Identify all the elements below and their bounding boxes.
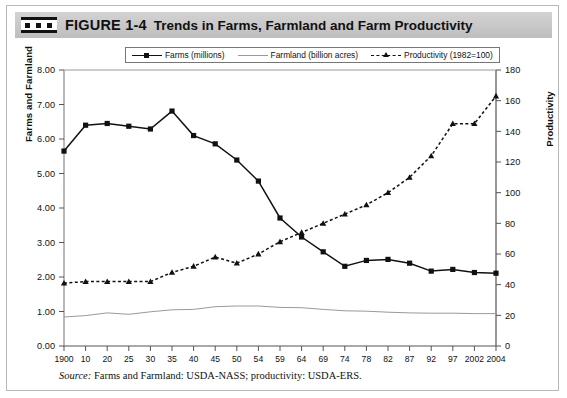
series-marker-square [126,124,131,129]
x-tick-label: 78 [362,354,372,364]
series-marker-triangle [299,229,305,235]
series-marker-square [213,141,218,146]
x-tick-label: 50 [232,354,242,364]
x-tick-label: 45 [210,354,220,364]
x-tick-label: 92 [426,354,436,364]
series-marker-square [105,121,110,126]
series-marker-square [256,178,261,183]
y-tick-label-left: 4.00 [37,203,55,213]
y-tick-label-left: 8.00 [37,65,55,75]
series-marker-square [191,133,196,138]
y-tick-label-left: 2.00 [37,272,55,282]
x-tick-label: 97 [448,354,458,364]
series-marker-square [364,258,369,263]
y-tick-label-right: 20 [505,311,515,321]
series-marker-triangle [493,93,499,99]
chart-plot-area: 0.001.002.003.004.005.006.007.008.000204… [7,6,560,392]
y-tick-label-right: 140 [505,127,520,137]
y-tick-label-left: 1.00 [37,307,55,317]
y-tick-label-left: 7.00 [37,100,55,110]
series-marker-square [83,123,88,128]
y-tick-label-right: 100 [505,188,520,198]
y-tick-label-left: 0.00 [37,341,55,351]
series-marker-square [472,270,477,275]
series-marker-square [148,126,153,131]
series-marker-square [429,269,434,274]
series-marker-triangle [169,269,175,275]
y-tick-label-right: 40 [505,280,515,290]
x-tick-label: 74 [340,354,350,364]
x-tick-label: 54 [254,354,264,364]
figure-card: FIGURE 1-4 Trends in Farms, Farmland and… [6,5,559,391]
y-tick-label-right: 180 [505,65,520,75]
series-marker-square [385,257,390,262]
series-line-2 [64,306,496,317]
series-marker-triangle [255,251,261,257]
x-tick-label: 69 [318,354,328,364]
series-marker-square [342,264,347,269]
x-tick-label: 1900 [54,354,73,364]
series-marker-triangle [191,263,197,269]
x-tick-label: 40 [189,354,199,364]
x-tick-label: 59 [275,354,285,364]
x-tick-label: 25 [124,354,134,364]
series-marker-square [277,215,282,220]
x-tick-label: 2004 [486,354,505,364]
x-tick-label: 82 [383,354,393,364]
series-marker-triangle [212,254,218,260]
y-tick-label-right: 80 [505,219,515,229]
series-marker-square [493,271,498,276]
x-tick-label: 20 [102,354,112,364]
series-marker-square [169,108,174,113]
series-marker-square [299,234,304,239]
y-tick-label-right: 160 [505,96,520,106]
y-tick-label-right: 60 [505,249,515,259]
x-tick-label: 87 [405,354,415,364]
series-marker-square [61,148,66,153]
series-line-1 [64,111,496,273]
y-tick-label-right: 120 [505,157,520,167]
x-tick-label: 64 [297,354,307,364]
x-tick-label: 10 [81,354,91,364]
series-marker-triangle [363,202,369,208]
series-marker-square [321,249,326,254]
y-tick-label-right: 0 [505,341,510,351]
series-marker-square [407,261,412,266]
series-marker-square [234,157,239,162]
x-tick-label: 35 [167,354,177,364]
y-tick-label-left: 6.00 [37,134,55,144]
y-tick-label-left: 3.00 [37,238,55,248]
series-marker-square [450,267,455,272]
y-tick-label-left: 5.00 [37,169,55,179]
x-tick-label: 2002 [465,354,484,364]
x-tick-label: 30 [146,354,156,364]
